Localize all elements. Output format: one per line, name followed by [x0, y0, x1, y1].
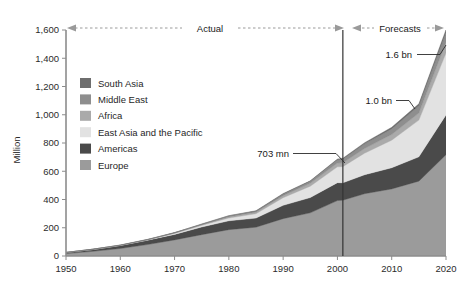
annotation-703mn-label: 703 mn [257, 148, 289, 159]
legend-swatch [80, 94, 91, 104]
x-tick-label: 1990 [273, 263, 294, 274]
x-tick-label: 2010 [381, 263, 402, 274]
y-tick-label: 1,600 [35, 24, 59, 35]
forecasts-period-label: Forecasts [379, 23, 421, 34]
legend-swatch [80, 144, 91, 154]
legend-swatch [80, 78, 91, 88]
legend-label: East Asia and the Pacific [98, 127, 203, 138]
legend-swatch [80, 160, 91, 170]
legend-swatch [80, 111, 91, 121]
x-tick-label: 2000 [327, 263, 348, 274]
y-tick-label: 1,200 [35, 81, 59, 92]
x-tick-label: 1950 [55, 263, 76, 274]
x-tick-label: 2020 [435, 263, 456, 274]
x-tick-label: 1980 [218, 263, 239, 274]
actual-period-label: Actual [197, 23, 223, 34]
y-axis-title: Million [11, 137, 22, 164]
stacked-area-chart: 02004006008001,0001,2001,4001,600 195019… [0, 0, 464, 288]
chart-container: 02004006008001,0001,2001,4001,600 195019… [0, 0, 464, 288]
legend-label: Middle East [98, 94, 148, 105]
legend-label: South Asia [98, 78, 144, 89]
x-tick-label: 1970 [164, 263, 185, 274]
y-tick-label: 400 [43, 194, 59, 205]
legend-label: Africa [98, 110, 123, 121]
y-tick-label: 200 [43, 222, 59, 233]
legend-label: Americas [98, 143, 138, 154]
y-tick-label: 0 [54, 250, 59, 261]
legend-label: Europe [98, 160, 129, 171]
legend-swatch [80, 127, 91, 137]
y-tick-label: 1,400 [35, 53, 59, 64]
annotation-16bn-label: 1.6 bn [386, 49, 412, 60]
x-tick-label: 1960 [110, 263, 131, 274]
annotation-10bn-label: 1.0 bn [366, 95, 392, 106]
y-tick-label: 600 [43, 166, 59, 177]
y-tick-label: 1,000 [35, 109, 59, 120]
y-tick-label: 800 [43, 137, 59, 148]
